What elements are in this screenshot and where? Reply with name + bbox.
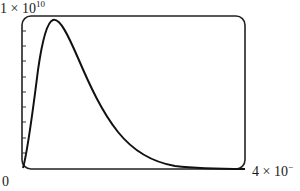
origin-label: 0 — [2, 175, 9, 189]
plot-frame — [22, 16, 245, 169]
data-curve — [23, 20, 245, 169]
x-max-label: 4 × 10− — [252, 163, 293, 179]
y-max-label: 1 × 1010 — [0, 0, 45, 16]
